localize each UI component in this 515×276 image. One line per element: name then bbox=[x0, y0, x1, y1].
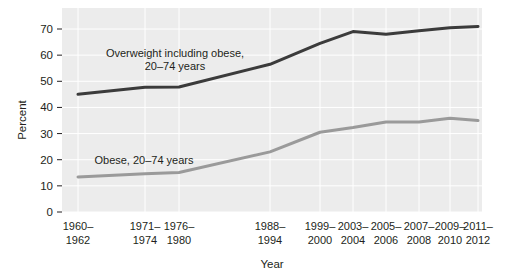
x-axis-tick-label: 1974 bbox=[133, 234, 157, 246]
x-axis-tick-label: 2009– bbox=[435, 220, 466, 232]
x-axis-tick-label: 2000 bbox=[308, 234, 332, 246]
y-axis-tick-label: 0 bbox=[47, 206, 53, 218]
x-axis-tick-label: 2006 bbox=[374, 234, 398, 246]
y-axis-tick-label: 20 bbox=[40, 154, 53, 166]
x-axis-tick-label: 2004 bbox=[341, 234, 365, 246]
x-axis-tick-label: 1999– bbox=[305, 220, 336, 232]
x-axis-tick-label: 2008 bbox=[407, 234, 431, 246]
y-axis-tick-label: 60 bbox=[40, 49, 53, 61]
y-axis-tick-label: 70 bbox=[40, 23, 53, 35]
chart-figure: 010203040506070 1960–19621971–19741976–1… bbox=[0, 0, 515, 276]
x-axis-tick-label: 2003– bbox=[338, 220, 369, 232]
x-axis-tick-label: 2007– bbox=[404, 220, 435, 232]
chart-canvas: 010203040506070 1960–19621971–19741976–1… bbox=[0, 0, 515, 276]
y-axis-tick-label: 50 bbox=[40, 75, 53, 87]
series-label: 20–74 years bbox=[145, 60, 206, 72]
y-axis-title: Percent bbox=[16, 99, 28, 139]
x-axis-tick-label: 2010 bbox=[438, 234, 462, 246]
x-axis-tick-label: 1988– bbox=[255, 220, 286, 232]
x-axis-tick-label: 1980 bbox=[167, 234, 191, 246]
x-axis-tick-label: 1960– bbox=[63, 220, 94, 232]
x-axis-tick-label: 1962 bbox=[66, 234, 90, 246]
x-axis-tick-label: 1994 bbox=[258, 234, 282, 246]
x-axis-tick-label: 1976– bbox=[164, 220, 195, 232]
y-axis-tick-label: 40 bbox=[40, 101, 53, 113]
x-axis-tick-label: 2012 bbox=[466, 234, 490, 246]
series-label: Obese, 20–74 years bbox=[94, 154, 194, 166]
y-axis-tick-label: 10 bbox=[40, 180, 53, 192]
x-axis-tick-label: 1971– bbox=[130, 220, 161, 232]
x-axis-tick-label: 2005– bbox=[371, 220, 402, 232]
x-axis-tick-label: 2011– bbox=[463, 220, 494, 232]
y-axis-tick-label: 30 bbox=[40, 128, 53, 140]
x-axis-title: Year bbox=[260, 258, 283, 270]
series-label: Overweight including obese, bbox=[106, 47, 244, 59]
